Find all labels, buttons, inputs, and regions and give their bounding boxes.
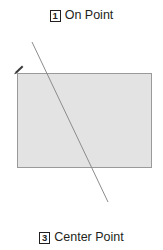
cad-snap-figure: 1 On Point 3 Center Point bbox=[0, 0, 163, 250]
caption-number-badge: 3 bbox=[39, 232, 50, 244]
caption-label: Center Point bbox=[54, 230, 123, 245]
pen-cursor-icon bbox=[14, 66, 23, 75]
caption-center-point: 3 Center Point bbox=[0, 230, 163, 245]
drawing-canvas bbox=[0, 0, 163, 250]
